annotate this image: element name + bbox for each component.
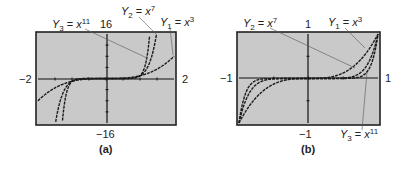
figure: −2 2 16 −16 (a) Y3 = x11 Y2 = x7 Y1 = x3… (0, 0, 402, 169)
panel-b-legend-y3: Y3 = x11 (340, 127, 379, 143)
panel-b-ymax-label: 1 (305, 18, 311, 30)
panel-a-xmax-label: 2 (182, 73, 188, 85)
panel-a-legend-y2: Y2 = x7 (121, 4, 156, 20)
panel-a-legend-y3: Y3 = x11 (52, 17, 91, 33)
panel-b-xmin-label: −1 (220, 72, 233, 84)
panel-a-xmin-label: −2 (19, 73, 32, 85)
panel-b-caption: (b) (301, 143, 315, 155)
panel-a-caption: (a) (99, 143, 113, 155)
panel-a-legend-y1: Y1 = x3 (160, 15, 195, 31)
panel-b-legend-y2: Y2 = x7 (243, 16, 278, 32)
panel-b: −1 1 1 −1 (b) Y2 = x7 Y1 = x3 Y3 = x11 (220, 15, 391, 155)
panel-a-ymax-label: 16 (100, 18, 112, 30)
panel-b-ymin-label: −1 (299, 128, 312, 140)
panel-a-ymin-label: −16 (96, 128, 115, 140)
panel-a: −2 2 16 −16 (a) Y3 = x11 Y2 = x7 Y1 = x3 (19, 4, 195, 155)
panel-b-xmax-label: 1 (385, 72, 391, 84)
